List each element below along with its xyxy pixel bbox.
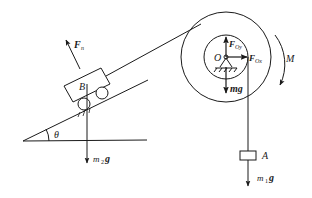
angle-label: θ: [54, 129, 59, 140]
block-weight-label: m: [257, 173, 264, 183]
moment-arrow: [275, 35, 285, 85]
angle-arc: [46, 129, 49, 141]
mechanics-diagram: θ B F n m 2 g O F Oy F Ox: [0, 0, 312, 198]
cart-weight-label: m: [93, 154, 100, 164]
rope-incline: [106, 24, 201, 76]
cart-weight-g: g: [104, 153, 110, 164]
cart-wheel-front: [96, 87, 108, 99]
reaction-x-label: F: [248, 53, 255, 63]
cart-weight-subscript: 2: [101, 159, 104, 165]
pivot-label: O: [214, 52, 221, 63]
pulley-weight-label: mg: [230, 83, 243, 94]
cart-label: B: [79, 81, 85, 92]
block-weight-subscript: 1: [265, 178, 268, 184]
block-a: [240, 151, 256, 160]
reaction-y-subscript: Oy: [235, 44, 242, 50]
block-weight-g: g: [268, 172, 274, 183]
ground-line: [23, 140, 147, 141]
block-label: A: [261, 150, 269, 161]
cart-wheel-rear: [78, 98, 90, 110]
moment-label: M: [285, 53, 295, 64]
reaction-x-subscript: Ox: [255, 58, 262, 64]
normal-force-label: F: [73, 39, 81, 50]
normal-force-subscript: n: [81, 45, 84, 51]
reaction-y-label: F: [228, 39, 235, 49]
